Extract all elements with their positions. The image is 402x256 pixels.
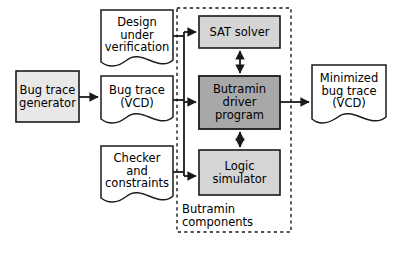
bug-trace-vcd-shape: [101, 76, 173, 123]
butramin-components-caption: Butramin components: [182, 203, 286, 229]
butramin-driver-program-box: [199, 76, 280, 129]
checker-and-constraints-shape: [101, 146, 173, 202]
bug-trace-generator-box: [16, 71, 79, 122]
logic-simulator-box: [199, 150, 280, 195]
sat-solver-box: [199, 16, 280, 48]
minimized-bug-trace-shape: [312, 65, 386, 123]
diagram-canvas: Bug trace generator Design under verific…: [0, 0, 402, 256]
design-under-verification-shape: [101, 10, 173, 66]
